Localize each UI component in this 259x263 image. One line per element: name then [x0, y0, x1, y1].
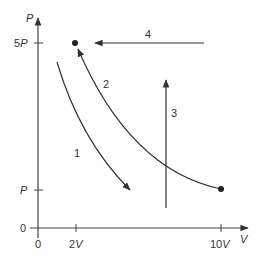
x-axis: V 0 2V 10V: [30, 224, 249, 250]
x-tick-label-2v: 2V: [69, 238, 84, 250]
path-2: 2: [78, 49, 221, 189]
y-tick-label-0: 0: [20, 222, 26, 234]
pv-diagram: P 5P P 0 V 0 2V 10V 1 2 3 4: [0, 0, 259, 263]
x-axis-label: V: [240, 233, 249, 245]
path-4: 4: [95, 28, 204, 43]
x-tick-label-0: 0: [35, 238, 41, 250]
path-4-label: 4: [145, 28, 151, 40]
path-3: 3: [166, 80, 177, 208]
y-tick-label-p: P: [20, 184, 28, 196]
path-1-label: 1: [74, 147, 80, 159]
x-tick-label-10v: 10V: [210, 238, 231, 250]
path-3-label: 3: [171, 107, 177, 119]
y-axis-label: P: [26, 12, 34, 24]
y-axis: P 5P P 0: [14, 12, 43, 238]
path-2-label: 2: [103, 78, 109, 90]
state-point-a: [72, 40, 78, 46]
state-point-b: [218, 186, 224, 192]
y-tick-label-5p: 5P: [14, 37, 28, 49]
